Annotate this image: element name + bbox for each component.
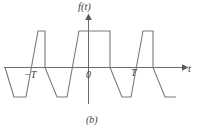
waveform-curve xyxy=(5,31,176,97)
figure-caption: (b) xyxy=(86,115,98,125)
y-axis-label: f(t) xyxy=(78,2,91,13)
x-axis-label: t xyxy=(188,64,191,75)
tick-label-minus-period: −T xyxy=(24,70,36,80)
origin-tick-label: 0 xyxy=(86,70,91,80)
tick-label-period: T xyxy=(131,68,137,78)
y-axis-arrow-icon xyxy=(85,14,92,21)
figure-container: f(t) t 0 −T T (b) xyxy=(0,0,198,135)
waveform-plot xyxy=(0,0,198,135)
